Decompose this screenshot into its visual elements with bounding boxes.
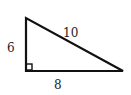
horizontal-leg-label: 8 <box>54 78 62 92</box>
vertical-leg-label: 6 <box>7 41 15 55</box>
hypotenuse-label: 10 <box>63 26 78 40</box>
triangle-diagram: 6 10 8 <box>0 0 131 95</box>
